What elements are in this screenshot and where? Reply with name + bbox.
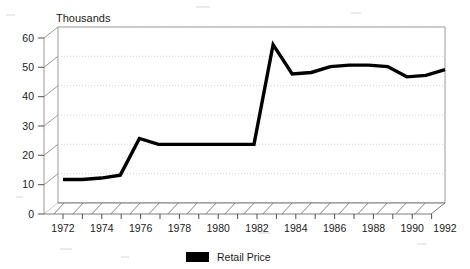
data-series-retail-price bbox=[63, 45, 445, 180]
chart-floor bbox=[44, 201, 445, 216]
y-tick-label: 40 bbox=[22, 90, 34, 102]
x-tick-label: 1978 bbox=[168, 222, 192, 234]
y-tick-label: 10 bbox=[22, 178, 34, 190]
y-axis-labels: 60 50 40 30 20 10 0 bbox=[22, 32, 34, 220]
plot-walls bbox=[44, 27, 445, 214]
x-tick-label: 1992 bbox=[433, 222, 457, 234]
x-tick-label: 1976 bbox=[129, 222, 153, 234]
y-tick-label: 20 bbox=[22, 149, 34, 161]
y-tick-label: 0 bbox=[28, 208, 34, 220]
y-axis-ticks bbox=[38, 38, 58, 214]
retail-price-line-chart: 60 50 40 30 20 10 0 bbox=[0, 0, 470, 269]
x-axis-labels: 1972 1974 1976 1978 1980 1982 1984 1986 … bbox=[51, 222, 457, 234]
x-tick-label: 1972 bbox=[51, 222, 75, 234]
x-tick-label: 1982 bbox=[245, 222, 269, 234]
x-tick-label: 1988 bbox=[362, 222, 386, 234]
x-tick-label: 1984 bbox=[284, 222, 308, 234]
legend-label-retail-price: Retail Price bbox=[217, 251, 271, 263]
x-tick-label: 1974 bbox=[90, 222, 114, 234]
x-tick-label: 1990 bbox=[401, 222, 425, 234]
y-tick-label: 30 bbox=[22, 120, 34, 132]
x-tick-label: 1980 bbox=[207, 222, 231, 234]
chart-legend: Retail Price bbox=[186, 251, 271, 263]
chart-container: 60 50 40 30 20 10 0 bbox=[0, 0, 470, 269]
legend-swatch-retail-price bbox=[186, 252, 209, 262]
y-tick-label: 50 bbox=[22, 61, 34, 73]
x-axis-ticks bbox=[63, 214, 432, 219]
y-tick-label: 60 bbox=[22, 32, 34, 44]
scan-noise bbox=[6, 6, 427, 258]
chart-title: Thousands bbox=[56, 12, 111, 24]
x-tick-label: 1986 bbox=[323, 222, 347, 234]
